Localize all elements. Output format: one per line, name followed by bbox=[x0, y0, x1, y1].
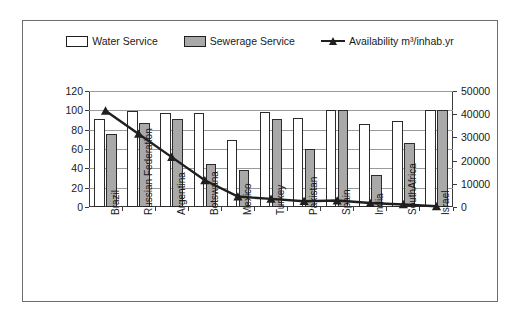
right-axis-tick bbox=[453, 114, 457, 115]
category-label: Pakistan bbox=[308, 177, 319, 215]
category-axis-tick bbox=[254, 207, 255, 211]
category-label: SouthAfrica bbox=[407, 163, 418, 215]
availability-polyline bbox=[106, 111, 437, 207]
left-axis-tick-label: 0 bbox=[49, 202, 83, 212]
sewerage-swatch-icon bbox=[184, 36, 206, 47]
category-axis-tick bbox=[221, 207, 222, 211]
category-axis-tick bbox=[353, 207, 354, 211]
legend-item-water-service: Water Service bbox=[66, 35, 158, 47]
right-axis-tick-label: 0 bbox=[461, 202, 467, 212]
left-axis-tick-label: 20 bbox=[49, 183, 83, 193]
legend-label-availability: Availability m³/inhab.yr bbox=[349, 35, 454, 47]
right-axis-tick-label: 40000 bbox=[461, 109, 490, 119]
availability-line-marker-icon bbox=[321, 37, 345, 46]
category-label: Mexico bbox=[242, 183, 253, 215]
category-axis-tick bbox=[155, 207, 156, 211]
availability-marker-brazil bbox=[101, 106, 110, 114]
right-axis-tick-label: 20000 bbox=[461, 156, 490, 166]
category-label: India bbox=[374, 193, 385, 215]
left-axis-tick bbox=[85, 168, 89, 169]
right-axis-tick-label: 30000 bbox=[461, 132, 490, 142]
chart-legend: Water Service Sewerage Service Availabil… bbox=[23, 33, 497, 49]
right-axis-tick bbox=[453, 91, 457, 92]
right-axis-tick-label: 10000 bbox=[461, 179, 490, 189]
category-label: Turkey bbox=[275, 185, 286, 215]
left-axis-tick bbox=[85, 110, 89, 111]
category-axis-tick bbox=[188, 207, 189, 211]
legend-label-sewerage: Sewerage Service bbox=[210, 35, 295, 47]
category-label: Argentina bbox=[176, 172, 187, 215]
right-axis-tick bbox=[453, 184, 457, 185]
left-axis-tick bbox=[85, 91, 89, 92]
right-axis-tick-label: 50000 bbox=[461, 86, 490, 96]
left-axis-tick-label: 80 bbox=[49, 125, 83, 135]
legend-item-availability: Availability m³/inhab.yr bbox=[321, 35, 454, 47]
category-axis-tick bbox=[320, 207, 321, 211]
category-label: Botswana bbox=[209, 171, 220, 215]
left-axis-tick-label: 60 bbox=[49, 144, 83, 154]
right-axis-tick bbox=[453, 161, 457, 162]
category-label: Spain bbox=[341, 189, 352, 215]
legend-label-water: Water Service bbox=[92, 35, 158, 47]
left-axis-tick-label: 40 bbox=[49, 163, 83, 173]
left-axis-tick-label: 100 bbox=[49, 105, 83, 115]
category-axis-tick bbox=[386, 207, 387, 211]
right-axis-tick bbox=[453, 137, 457, 138]
category-axis-tick bbox=[419, 207, 420, 211]
left-axis-tick bbox=[85, 130, 89, 131]
water-swatch-icon bbox=[66, 36, 88, 47]
left-axis-tick-label: 120 bbox=[49, 86, 83, 96]
right-axis-tick bbox=[453, 207, 457, 208]
legend-item-sewerage-service: Sewerage Service bbox=[184, 35, 295, 47]
category-axis-tick bbox=[287, 207, 288, 211]
left-axis-tick bbox=[85, 207, 89, 208]
category-label: Israel bbox=[440, 191, 451, 215]
category-label: Russian Federation bbox=[143, 128, 154, 215]
left-axis-tick bbox=[85, 149, 89, 150]
chart-frame: Water Service Sewerage Service Availabil… bbox=[22, 20, 498, 302]
category-axis-tick bbox=[453, 207, 454, 211]
left-axis-tick bbox=[85, 188, 89, 189]
category-axis-tick bbox=[122, 207, 123, 211]
category-label: Brazil bbox=[110, 190, 121, 215]
